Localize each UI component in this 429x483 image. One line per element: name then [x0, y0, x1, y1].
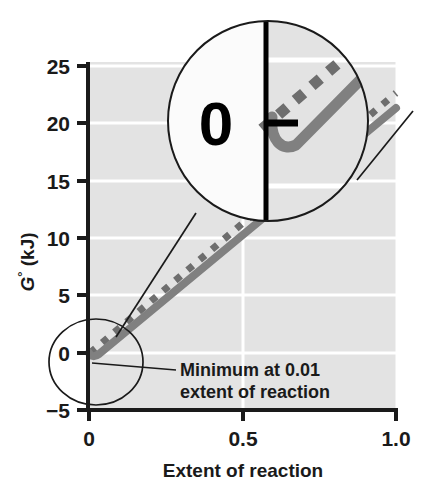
x-tick-label-05: 0.5 [228, 427, 258, 450]
y-tick-label-0: 0 [58, 342, 70, 365]
y-tick-label-10: 10 [47, 227, 70, 250]
y-axis-title: G° (kJ) [15, 232, 39, 291]
x-tick-label-0: 0 [83, 427, 95, 450]
y-axis-title-units: (kJ) [17, 232, 38, 271]
chart-figure: 25 20 15 10 5 0 −5 0 0.5 1.0 G° (kJ) Ext… [0, 0, 429, 483]
y-tick-label-20: 20 [47, 112, 70, 135]
callout-line-1: Minimum at 0.01 [180, 360, 320, 380]
svg-text:G° (kJ): G° (kJ) [15, 232, 39, 291]
y-tick-label-neg5: −5 [46, 399, 70, 422]
y-tick-label-5: 5 [58, 284, 70, 307]
y-axis-title-symbol: G [17, 277, 38, 292]
x-tick-label-10: 1.0 [381, 427, 410, 450]
callout-line-2: extent of reaction [180, 382, 330, 402]
magnifier-zero-label: 0 [199, 89, 233, 158]
y-tick-label-25: 25 [47, 55, 71, 78]
x-axis-title: Extent of reaction [163, 460, 323, 481]
y-tick-label-15: 15 [47, 170, 71, 193]
